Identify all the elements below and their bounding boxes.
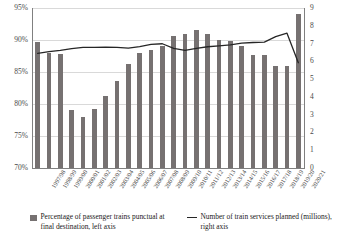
y-tick-left: 90% (2, 36, 28, 44)
y-tick-left: 95% (2, 4, 28, 12)
y-axis-right-line (304, 8, 305, 169)
chart-legend: Percentage of passenger trains punctual … (0, 212, 362, 246)
chart-container: 70%75%80%85%90%95% 0123456789 1997/98199… (0, 0, 362, 249)
y-tick-right: 3 (310, 111, 334, 119)
y-tick-right: 5 (310, 75, 334, 83)
x-axis-labels: 1997/981998/991999/002000/012001/022002/… (32, 169, 304, 211)
y-tick-left: 75% (2, 132, 28, 140)
y-tick-left: 80% (2, 100, 28, 108)
y-tick-right: 7 (310, 40, 334, 48)
line-series (32, 8, 304, 168)
y-tick-right: 2 (310, 128, 334, 136)
y-tick-right: 9 (310, 4, 334, 12)
y-tick-right: 8 (310, 22, 334, 30)
legend-item-line: Number of train services planned (millio… (187, 212, 333, 246)
legend-item-bars: Percentage of passenger trains punctual … (30, 212, 173, 246)
legend-label-line: Number of train services planned (millio… (201, 212, 333, 232)
line-swatch-icon (187, 217, 197, 218)
bar-swatch-icon (30, 215, 37, 221)
legend-label-bars: Percentage of passenger trains punctual … (41, 212, 173, 232)
y-tick-right: 6 (310, 57, 334, 65)
y-tick-left: 70% (2, 164, 28, 172)
y-tick-left: 85% (2, 68, 28, 76)
y-tick-right: 4 (310, 93, 334, 101)
y-tick-right: 1 (310, 146, 334, 154)
